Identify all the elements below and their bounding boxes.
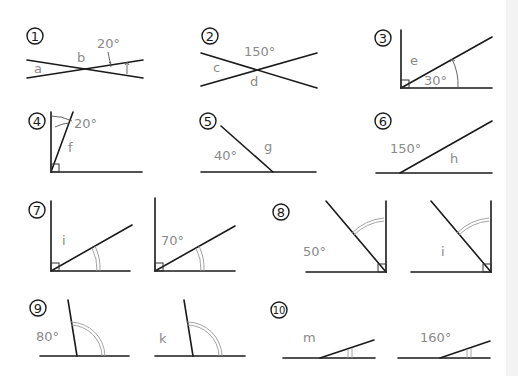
problem-4: 4 20° f (29, 112, 142, 172)
given-angle-label: 40° (214, 148, 237, 163)
problem-7: 7 i 70° (29, 198, 235, 271)
double-arc (196, 248, 201, 271)
given-angle-label: 160° (420, 330, 451, 345)
problem-number: 4 (33, 114, 41, 129)
problem-6: 6 150° h (375, 113, 492, 173)
problem-number: 8 (277, 205, 285, 220)
problem-number: 5 (204, 114, 212, 129)
problem-number: 1 (31, 29, 39, 44)
given-angle-label: 30° (424, 73, 447, 88)
problem-5: 5 40° g (200, 113, 316, 172)
unknown-angle-a: a (34, 61, 42, 76)
unknown-angle-k: k (159, 331, 167, 346)
unknown-angle-i: i (441, 244, 445, 259)
unknown-angle-e: e (410, 53, 418, 68)
double-arc (354, 221, 384, 235)
slanted-ray (431, 201, 491, 272)
problem-1: 1 20° a b (27, 28, 143, 78)
slanted-ray (320, 340, 374, 358)
problem-number: 9 (34, 301, 42, 316)
angle-worksheet: 1 20° a b 2 150° c d 3 e 30° 4 (0, 0, 518, 376)
unknown-angle-f: f (68, 140, 73, 155)
unknown-angle-d: d (250, 74, 258, 89)
problem-9: 9 80° k (30, 300, 245, 356)
given-angle-label: 80° (36, 329, 59, 344)
unknown-angle-g: g (264, 139, 272, 154)
double-arc (459, 221, 489, 235)
given-angle-label: 150° (244, 44, 275, 59)
problem-10: 10 m 160° (271, 302, 490, 358)
slanted-ray (51, 225, 132, 271)
problem-number: 6 (379, 114, 387, 129)
slanted-ray (184, 300, 193, 356)
slanted-ray (326, 201, 386, 272)
slanted-ray (68, 300, 77, 356)
unknown-angle-i: i (62, 233, 66, 248)
given-angle-label: 50° (303, 244, 326, 259)
angle-arc (452, 59, 458, 88)
unknown-angle-m: m (303, 330, 316, 345)
given-angle-label: 20° (97, 36, 120, 51)
problem-8: 8 50° i (273, 201, 491, 272)
double-arc (92, 248, 97, 271)
problem-number: 2 (206, 29, 214, 44)
problem-number: 10 (273, 305, 286, 316)
problem-number: 7 (33, 203, 41, 218)
problem-number: 3 (379, 31, 387, 46)
unknown-angle-b: b (77, 50, 85, 65)
problem-2: 2 150° c d (201, 28, 317, 89)
given-angle-label: 150° (390, 141, 421, 156)
problem-3: 3 e 30° (375, 30, 492, 88)
angle-arc (51, 116, 72, 121)
unknown-angle-h: h (450, 151, 458, 166)
given-angle-label: 20° (74, 116, 97, 131)
unknown-angle-c: c (213, 60, 220, 75)
given-angle-label: 70° (161, 233, 184, 248)
